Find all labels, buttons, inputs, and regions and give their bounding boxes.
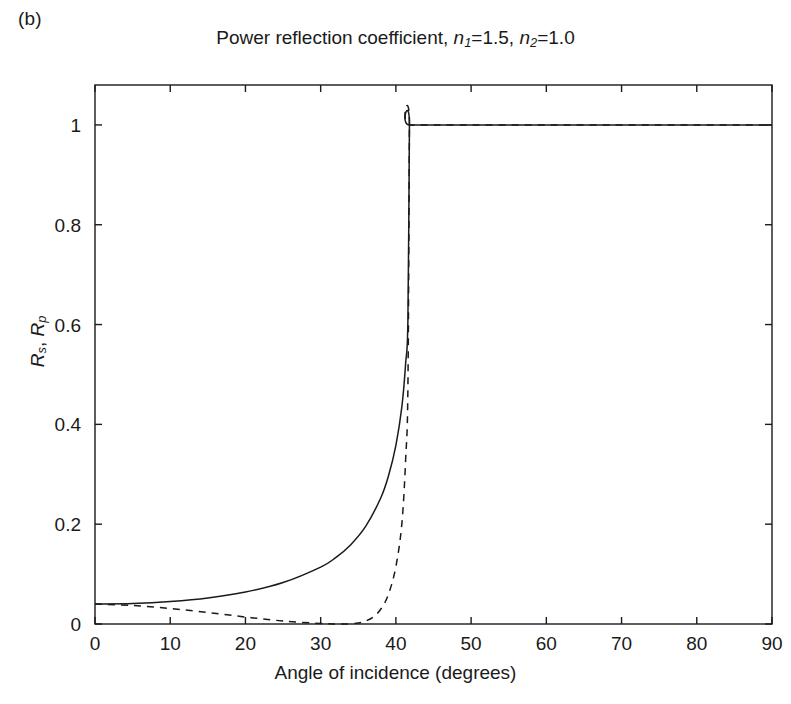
x-axis-label: Angle of incidence (degrees) xyxy=(0,662,791,684)
series-line-rs xyxy=(95,111,772,605)
plot-area: 0102030405060708090 00.20.40.60.81 xyxy=(0,0,791,704)
y-axis-label-r-s: R xyxy=(27,354,48,368)
y-axis-label-separator: , xyxy=(27,337,48,348)
y-tick-label: 0.2 xyxy=(55,514,81,535)
x-tick-label: 30 xyxy=(310,633,331,654)
figure-panel-b: (b) Power reflection coefficient, n1=1.5… xyxy=(0,0,791,704)
axes-frame xyxy=(95,85,772,624)
y-tick-label: 0.4 xyxy=(55,414,82,435)
x-tick-label: 20 xyxy=(235,633,256,654)
x-axis-ticks xyxy=(95,85,772,624)
y-tick-label: 0.8 xyxy=(55,215,81,236)
x-tick-label: 80 xyxy=(686,633,707,654)
y-axis-label-r-p: R xyxy=(27,323,48,337)
x-tick-label: 50 xyxy=(461,633,482,654)
y-tick-label: 0.6 xyxy=(55,315,81,336)
x-tick-label: 0 xyxy=(90,633,101,654)
x-tick-label: 60 xyxy=(536,633,557,654)
y-axis-label: Rs, Rp xyxy=(27,281,50,401)
y-axis-label-sub-s: s xyxy=(34,347,49,353)
y-axis-label-sub-p: p xyxy=(34,316,49,323)
x-tick-label: 10 xyxy=(160,633,181,654)
y-axis-tick-labels: 00.20.40.60.81 xyxy=(55,115,82,635)
series-line-rp xyxy=(95,106,772,625)
x-tick-label: 70 xyxy=(611,633,632,654)
y-tick-label: 0 xyxy=(70,614,81,635)
data-series-group xyxy=(95,106,772,625)
x-axis-tick-labels: 0102030405060708090 xyxy=(90,633,783,654)
x-tick-label: 90 xyxy=(761,633,782,654)
x-tick-label: 40 xyxy=(385,633,406,654)
y-tick-label: 1 xyxy=(70,115,81,136)
y-axis-ticks xyxy=(95,125,772,624)
